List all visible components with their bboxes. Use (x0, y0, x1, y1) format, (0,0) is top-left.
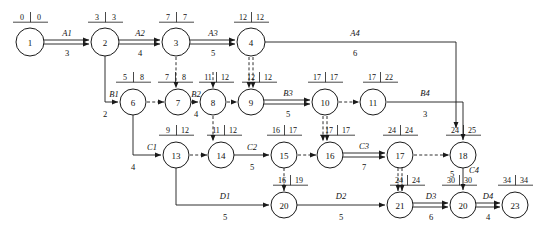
node-16[interactable]: 16 (317, 142, 343, 168)
event-time-tag-11: 1722 (363, 72, 398, 82)
activity-duration-D1: 5 (223, 212, 227, 222)
activity-duration-D2: 5 (339, 212, 343, 222)
event-early-time: 12 (247, 73, 255, 82)
event-early-time: 0 (20, 13, 24, 22)
event-early-time: 7 (165, 73, 169, 82)
event-time-tag-21: 2424 (390, 175, 425, 185)
event-late-time: 30 (464, 176, 472, 185)
node-17[interactable]: 17 (387, 142, 413, 168)
activity-duration-A2: 4 (138, 48, 143, 58)
event-time-tag-20b: 3030 (442, 175, 477, 185)
node-9[interactable]: 9 (238, 89, 264, 115)
node-label: 20 (280, 201, 290, 211)
activity-duration-C1: 4 (131, 162, 136, 172)
event-late-time: 12 (181, 126, 189, 135)
activity-A2 (119, 40, 160, 44)
node-20a[interactable]: 20 (271, 192, 297, 218)
event-time-tag-17: 2424 (383, 125, 418, 135)
activity-duration-C2: 5 (250, 162, 254, 172)
node-7[interactable]: 7 (165, 89, 191, 115)
event-time-tag-13: 912 (159, 125, 194, 135)
node-label: 18 (459, 151, 469, 161)
activity-name-B3: B3 (283, 88, 292, 98)
activity-name-D1: D1 (219, 191, 230, 201)
node-label: 23 (511, 201, 521, 211)
activity-duration-B1: 2 (103, 109, 107, 119)
node-label: 9 (249, 98, 254, 108)
event-late-time: 34 (520, 176, 528, 185)
activity-name-B4: B4 (420, 88, 430, 98)
event-time-tag-9: 1212 (242, 72, 277, 82)
edge-layer (44, 40, 500, 207)
event-early-time: 24 (451, 126, 459, 135)
node-2[interactable]: 2 (91, 28, 119, 56)
network-diagram-canvas: 12346789101113141516171820212023 0033771… (0, 0, 544, 234)
activity-name-C1: C1 (147, 142, 157, 152)
event-late-time: 7 (183, 13, 187, 22)
node-label: 3 (174, 38, 179, 48)
event-early-time: 24 (395, 176, 403, 185)
node-10[interactable]: 10 (312, 89, 338, 115)
node-label: 13 (172, 151, 182, 161)
event-time-tag-14: 1112 (207, 125, 242, 135)
event-early-time: 16 (278, 176, 286, 185)
node-3[interactable]: 3 (162, 28, 190, 56)
activity-duration-C3: 7 (362, 162, 366, 172)
node-6[interactable]: 6 (120, 89, 146, 115)
event-early-time: 17 (368, 73, 376, 82)
activity-C3 (343, 153, 385, 157)
activity-name-C3: C3 (359, 141, 369, 151)
node-11[interactable]: 11 (360, 89, 386, 115)
event-time-tag-6: 58 (116, 72, 151, 82)
node-14[interactable]: 14 (208, 142, 234, 168)
event-late-time: 3 (112, 13, 116, 22)
activity-name-B1: B1 (109, 89, 118, 99)
node-label: 14 (217, 151, 227, 161)
event-early-time: 3 (95, 13, 99, 22)
event-late-time: 17 (289, 126, 297, 135)
node-13[interactable]: 13 (163, 142, 189, 168)
node-1[interactable]: 1 (16, 28, 44, 56)
event-late-time: 8 (140, 73, 144, 82)
node-label: 11 (369, 98, 378, 108)
event-time-tag-10: 1717 (308, 72, 343, 82)
event-late-time: 12 (229, 126, 237, 135)
event-time-tag-20a: 1619 (273, 175, 308, 185)
node-label: 15 (280, 151, 290, 161)
event-early-time: 16 (272, 126, 280, 135)
activity-duration-A1: 3 (65, 48, 69, 58)
activity-D3 (413, 203, 448, 207)
activity-duration-C4: 5 (450, 169, 454, 179)
event-time-tag-23: 3434 (498, 175, 533, 185)
activity-D4 (476, 203, 500, 207)
node-label: 17 (396, 151, 406, 161)
activity-name-C2: C2 (247, 142, 258, 152)
node-label: 21 (396, 201, 405, 211)
event-late-time: 25 (468, 126, 476, 135)
node-label: 2 (103, 38, 108, 48)
node-label: 4 (249, 38, 254, 48)
node-21[interactable]: 21 (387, 192, 413, 218)
activity-name-D2: D2 (335, 191, 347, 201)
event-late-time: 22 (385, 73, 393, 82)
node-15[interactable]: 15 (271, 142, 297, 168)
event-early-time: 17 (325, 126, 333, 135)
event-late-time: 24 (412, 176, 420, 185)
event-time-tag-1: 00 (13, 12, 48, 22)
event-late-time: 17 (330, 73, 338, 82)
node-23[interactable]: 23 (502, 192, 528, 218)
event-early-time: 5 (123, 73, 127, 82)
node-4[interactable]: 4 (237, 28, 265, 56)
event-late-time: 0 (37, 13, 41, 22)
event-late-time: 19 (295, 176, 303, 185)
node-label: 20 (459, 201, 469, 211)
node-8[interactable]: 8 (200, 89, 226, 115)
activity-A4 (265, 42, 456, 128)
node-label: 8 (211, 98, 216, 108)
event-early-time: 9 (166, 126, 170, 135)
node-20b[interactable]: 20 (450, 192, 476, 218)
event-late-time: 12 (221, 73, 229, 82)
node-label: 10 (321, 98, 331, 108)
node-label: 1 (28, 38, 33, 48)
activity-B3 (264, 100, 310, 104)
